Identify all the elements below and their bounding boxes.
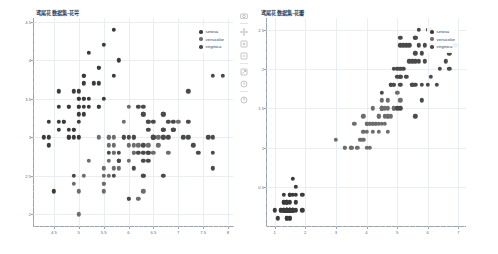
data-point[interactable] <box>151 135 155 139</box>
data-point[interactable] <box>276 216 280 220</box>
data-point[interactable] <box>67 128 71 132</box>
data-point[interactable] <box>377 114 381 118</box>
data-point[interactable] <box>367 145 371 149</box>
data-point[interactable] <box>429 75 433 79</box>
data-point[interactable] <box>413 114 417 118</box>
data-point[interactable] <box>47 135 51 139</box>
modebar-sepal[interactable] <box>238 10 249 105</box>
data-point[interactable] <box>52 189 56 193</box>
data-point[interactable] <box>77 104 81 108</box>
data-point[interactable] <box>161 112 165 116</box>
autoscale-icon[interactable] <box>238 66 249 77</box>
data-point[interactable] <box>211 151 215 155</box>
data-point[interactable] <box>126 158 130 162</box>
data-point[interactable] <box>126 104 130 108</box>
data-point[interactable] <box>386 130 390 134</box>
data-point[interactable] <box>438 67 442 71</box>
data-point[interactable] <box>47 143 51 147</box>
data-point[interactable] <box>361 114 365 118</box>
data-point[interactable] <box>416 43 420 47</box>
data-point[interactable] <box>101 181 105 185</box>
data-point[interactable] <box>96 66 100 70</box>
data-point[interactable] <box>47 120 51 124</box>
data-point[interactable] <box>419 98 423 102</box>
data-point[interactable] <box>386 106 390 110</box>
data-point[interactable] <box>126 135 130 139</box>
data-point[interactable] <box>186 120 190 124</box>
data-point[interactable] <box>389 114 393 118</box>
data-point[interactable] <box>300 208 304 212</box>
data-point[interactable] <box>398 106 402 110</box>
data-point[interactable] <box>166 135 170 139</box>
data-point[interactable] <box>171 128 175 132</box>
data-point[interactable] <box>111 174 115 178</box>
data-point[interactable] <box>101 189 105 193</box>
data-point[interactable] <box>82 112 86 116</box>
data-point[interactable] <box>101 97 105 101</box>
legend-petal[interactable]: setosaversicolorvirginica <box>427 26 458 53</box>
data-point[interactable] <box>136 143 140 147</box>
data-point[interactable] <box>196 151 200 155</box>
data-point[interactable] <box>146 151 150 155</box>
data-point[interactable] <box>156 135 160 139</box>
data-point[interactable] <box>395 90 399 94</box>
data-point[interactable] <box>121 120 125 124</box>
data-point[interactable] <box>67 104 71 108</box>
data-point[interactable] <box>161 128 165 132</box>
help-icon[interactable] <box>238 94 249 105</box>
data-point[interactable] <box>413 35 417 39</box>
data-point[interactable] <box>101 43 105 47</box>
data-point[interactable] <box>42 135 46 139</box>
data-point[interactable] <box>211 166 215 170</box>
data-point[interactable] <box>141 112 145 116</box>
data-point[interactable] <box>77 189 81 193</box>
data-point[interactable] <box>77 89 81 93</box>
data-point[interactable] <box>101 166 105 170</box>
data-point[interactable] <box>116 58 120 62</box>
data-point[interactable] <box>72 181 76 185</box>
data-point[interactable] <box>72 174 76 178</box>
data-point[interactable] <box>67 135 71 139</box>
data-point[interactable] <box>141 104 145 108</box>
data-point[interactable] <box>106 174 110 178</box>
data-point[interactable] <box>146 120 150 124</box>
data-point[interactable] <box>401 67 405 71</box>
data-point[interactable] <box>181 135 185 139</box>
data-point[interactable] <box>111 135 115 139</box>
data-point[interactable] <box>294 185 298 189</box>
data-point[interactable] <box>136 197 140 201</box>
data-point[interactable] <box>380 98 384 102</box>
data-point[interactable] <box>422 59 426 63</box>
data-point[interactable] <box>121 135 125 139</box>
pan-icon[interactable] <box>238 26 249 37</box>
data-point[interactable] <box>151 151 155 155</box>
data-point[interactable] <box>211 74 215 78</box>
data-point[interactable] <box>166 120 170 124</box>
data-point[interactable] <box>116 158 120 162</box>
data-point[interactable] <box>141 151 145 155</box>
data-point[interactable] <box>161 174 165 178</box>
data-point[interactable] <box>176 120 180 124</box>
data-point[interactable] <box>77 112 81 116</box>
data-point[interactable] <box>116 151 120 155</box>
data-point[interactable] <box>377 130 381 134</box>
data-point[interactable] <box>146 128 150 132</box>
data-point[interactable] <box>444 59 448 63</box>
data-point[interactable] <box>82 104 86 108</box>
data-point[interactable] <box>426 83 430 87</box>
data-point[interactable] <box>136 104 140 108</box>
data-point[interactable] <box>380 90 384 94</box>
data-point[interactable] <box>352 122 356 126</box>
data-point[interactable] <box>131 166 135 170</box>
data-point[interactable] <box>398 83 402 87</box>
data-point[interactable] <box>151 120 155 124</box>
data-point[interactable] <box>355 145 359 149</box>
data-point[interactable] <box>171 120 175 124</box>
data-point[interactable] <box>166 151 170 155</box>
data-point[interactable] <box>87 97 91 101</box>
data-point[interactable] <box>57 128 61 132</box>
legend-item-setosa[interactable]: setosa <box>199 28 224 36</box>
data-point[interactable] <box>77 135 81 139</box>
data-point[interactable] <box>370 130 374 134</box>
data-point[interactable] <box>106 151 110 155</box>
